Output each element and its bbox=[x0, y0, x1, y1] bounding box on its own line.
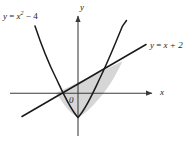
line-label-eq: = bbox=[154, 40, 164, 50]
graph-figure: y = x2 − 4 y = x + 2 x y 0 bbox=[0, 0, 194, 142]
origin-label: 0 bbox=[69, 96, 74, 105]
x-axis-label: x bbox=[160, 88, 164, 97]
parabola-label-tail: − 4 bbox=[24, 11, 38, 21]
shaded-region bbox=[56, 61, 123, 117]
parabola-equation-label: y = x2 − 4 bbox=[3, 12, 38, 21]
graph-canvas bbox=[0, 0, 194, 142]
line-equation-label: y = x + 2 bbox=[150, 41, 183, 50]
parabola-label-eq: = bbox=[7, 11, 17, 21]
y-axis-label: y bbox=[80, 3, 84, 12]
line-label-rhs: x + 2 bbox=[164, 40, 183, 50]
